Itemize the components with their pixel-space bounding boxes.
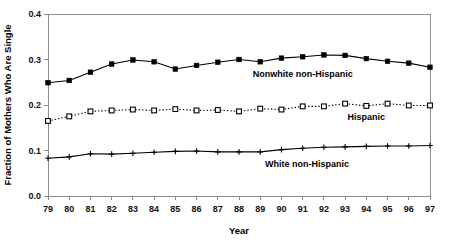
data-point-marker [406, 61, 411, 66]
data-point-marker [237, 109, 242, 114]
data-point-marker [194, 63, 199, 68]
x-tick-label: 87 [213, 204, 223, 214]
data-point-marker [279, 107, 284, 112]
data-point-marker [173, 67, 178, 72]
x-tick-label: 81 [85, 204, 95, 214]
x-tick-label: 92 [319, 204, 329, 214]
data-point-marker [152, 108, 157, 113]
x-tick-label: 94 [361, 204, 371, 214]
x-tick-label: 79 [43, 204, 53, 214]
data-point-marker [237, 57, 242, 62]
data-point-marker [152, 59, 157, 64]
data-point-marker [279, 56, 284, 61]
data-point-marker [406, 103, 411, 108]
data-point-marker [46, 80, 51, 85]
data-point-marker [300, 104, 305, 109]
data-point-marker [88, 109, 93, 114]
x-tick-label: 83 [128, 204, 138, 214]
data-point-marker [258, 59, 263, 64]
single-mothers-line-chart: 0.00.10.20.30.4 798081828384858687888990… [0, 0, 457, 250]
x-tick-label: 84 [149, 204, 159, 214]
y-axis-title: Fraction of Mothers Who Are Single [2, 24, 13, 185]
y-tick-label: 0.3 [28, 55, 41, 65]
data-point-marker [88, 70, 93, 75]
chart-container: 0.00.10.20.30.4 798081828384858687888990… [0, 0, 457, 250]
x-tick-label: 95 [383, 204, 393, 214]
data-point-marker [215, 60, 220, 65]
x-tick-label: 88 [234, 204, 244, 214]
data-point-marker [343, 53, 348, 58]
data-point-marker [364, 104, 369, 109]
data-point-marker [385, 59, 390, 64]
x-tick-label: 96 [404, 204, 414, 214]
data-point-marker [130, 107, 135, 112]
data-point-marker [173, 107, 178, 112]
y-tick-label: 0.0 [28, 191, 41, 201]
y-tick-label: 0.1 [28, 146, 41, 156]
x-tick-label: 93 [340, 204, 350, 214]
data-point-marker [258, 106, 263, 111]
x-tick-label: 90 [276, 204, 286, 214]
x-tick-label: 86 [192, 204, 202, 214]
data-point-marker [131, 58, 136, 63]
data-point-marker [67, 114, 72, 119]
data-point-marker [428, 65, 433, 70]
data-point-marker [321, 104, 326, 109]
data-point-marker [109, 62, 114, 67]
x-tick-label: 80 [64, 204, 74, 214]
series-annotation-label: Hispanic [348, 112, 386, 122]
y-tick-label: 0.2 [28, 100, 41, 110]
y-tick-label: 0.4 [28, 9, 41, 19]
x-tick-label: 91 [298, 204, 308, 214]
data-point-marker [385, 101, 390, 106]
data-point-marker [46, 119, 51, 124]
data-point-marker [428, 103, 433, 108]
data-point-marker [194, 108, 199, 113]
data-point-marker [109, 108, 114, 113]
x-tick-label: 85 [170, 204, 180, 214]
data-point-marker [300, 54, 305, 59]
x-tick-label: 89 [255, 204, 265, 214]
data-point-marker [215, 108, 220, 113]
data-point-marker [67, 78, 72, 83]
x-tick-label: 82 [107, 204, 117, 214]
x-tick-label: 97 [425, 204, 435, 214]
x-axis-title: Year [229, 225, 249, 236]
series-annotation-label: Nonwhite non-Hispanic [253, 69, 353, 79]
data-point-marker [343, 101, 348, 106]
data-point-marker [322, 53, 327, 58]
series-annotation-label: White non-Hispanic [265, 159, 349, 169]
data-point-marker [364, 56, 369, 61]
